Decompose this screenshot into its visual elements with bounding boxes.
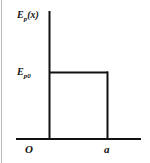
- barrier-width-label: a: [104, 144, 110, 155]
- origin-label: O: [25, 144, 33, 155]
- diagram-lines: [0, 0, 150, 163]
- barrier-height-label: Ep0: [17, 67, 31, 80]
- y-axis-label: Ep(x): [17, 10, 39, 23]
- potential-barrier-diagram: Ep(x) Ep0 O a: [0, 0, 150, 163]
